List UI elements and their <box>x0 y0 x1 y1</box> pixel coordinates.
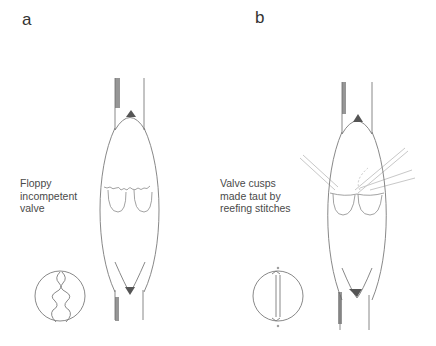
panel-a-floppy-cusps <box>104 186 152 212</box>
panel-b-upper-apex <box>353 114 363 122</box>
panel-a-cross-section <box>35 271 85 322</box>
panel-b-reefing-stitches <box>300 148 415 193</box>
panel-a-upper-wall-shading <box>115 78 120 108</box>
panel-b-lower-wall-shading <box>338 292 342 324</box>
panel-a-lower-apex <box>125 287 135 295</box>
panel-b-cross-section <box>253 267 303 327</box>
panel-a-lower-wall-shading <box>115 297 119 321</box>
panel-b-upper-wall-shading <box>342 82 346 114</box>
panel-a-upper-apex <box>126 110 136 117</box>
vein-valve-diagram <box>0 0 436 346</box>
panel-b-taut-cusps <box>330 193 384 215</box>
